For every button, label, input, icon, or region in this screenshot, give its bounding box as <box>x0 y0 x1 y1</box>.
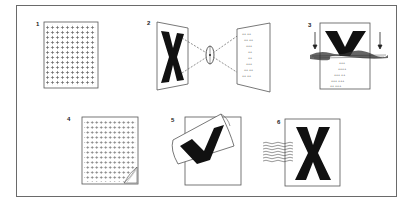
svg-text:+++: +++ <box>246 44 252 48</box>
diagram-canvas: ++ ++ ++ ++ +++ ++ ++ +++ ++ ++ ++ ++ <box>0 0 414 204</box>
svg-text:++ ++: ++ ++ <box>242 74 251 78</box>
panel-1-grid-sheet <box>44 22 98 88</box>
svg-text:++ ++: ++ ++ <box>244 38 253 42</box>
svg-text:++++: ++++ <box>338 67 346 71</box>
panel-4-peeling-sheet <box>82 117 138 184</box>
svg-text:+++ ++: +++ ++ <box>334 73 345 77</box>
svg-text:+++: +++ <box>339 61 345 65</box>
panel-3-coating: +++ ++++ +++ ++ +++ +++ ++ +++ <box>310 23 388 89</box>
svg-text:++: ++ <box>248 56 252 60</box>
svg-text:+++: +++ <box>246 62 252 66</box>
panel-5-film-transfer <box>172 114 241 185</box>
svg-text:++ +++: ++ +++ <box>330 84 341 88</box>
panel-6-final-print <box>263 119 340 186</box>
panel-2-lens-projection: ++ ++ ++ ++ +++ ++ ++ +++ ++ ++ ++ ++ <box>157 22 270 92</box>
svg-text:++ ++: ++ ++ <box>244 68 253 72</box>
svg-text:++ ++: ++ ++ <box>242 32 251 36</box>
svg-text:++: ++ <box>248 50 252 54</box>
svg-text:+++ +++: +++ +++ <box>331 79 344 83</box>
